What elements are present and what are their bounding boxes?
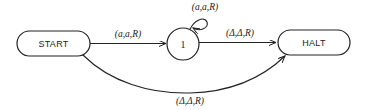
transition-1-self-loop: (a,a,R) bbox=[190, 2, 218, 30]
transition-label: (a,a,R) bbox=[115, 29, 141, 40]
state-1-label: 1 bbox=[181, 39, 186, 50]
state-halt: HALT bbox=[278, 30, 350, 55]
transition-start-to-1: (a,a,R) bbox=[90, 29, 166, 44]
transition-label: (a,a,R) bbox=[192, 2, 218, 13]
state-start-label: START bbox=[38, 39, 68, 49]
state-diagram: START 1 HALT (a,a,R) (a,a,R) (Δ,Δ,R) (Δ,… bbox=[0, 0, 367, 110]
transition-1-to-halt: (Δ,Δ,R) bbox=[199, 28, 276, 43]
state-1: 1 bbox=[167, 28, 199, 60]
transition-label: (Δ,Δ,R) bbox=[226, 28, 254, 39]
transition-start-to-halt: (Δ,Δ,R) bbox=[83, 55, 285, 107]
state-start: START bbox=[17, 31, 90, 56]
state-halt-label: HALT bbox=[302, 38, 326, 48]
edge-arrow bbox=[83, 55, 285, 93]
edge-arrow bbox=[190, 19, 207, 29]
transition-label: (Δ,Δ,R) bbox=[176, 96, 204, 107]
